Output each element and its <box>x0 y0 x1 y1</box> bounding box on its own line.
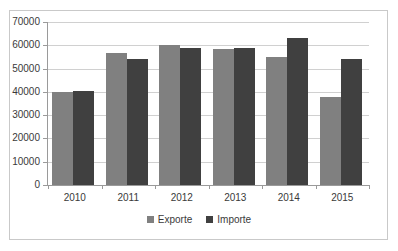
bar-exporte-2014 <box>266 57 287 185</box>
y-tick-label-0: 0 <box>34 180 40 190</box>
bar-group-2012 <box>155 22 209 185</box>
x-axis-label-2014: 2014 <box>262 192 316 203</box>
bar-group-2010 <box>48 22 102 185</box>
y-tick-mark-20000 <box>43 138 48 139</box>
x-axis-label-2011: 2011 <box>101 192 155 203</box>
bar-group-2014 <box>262 22 316 185</box>
bar-exporte-2015 <box>320 97 341 185</box>
bar-exporte-2013 <box>213 49 234 185</box>
bar-group-2011 <box>102 22 156 185</box>
x-axis-label-2010: 2010 <box>48 192 102 203</box>
legend-item-importe[interactable]: Importe <box>206 214 251 225</box>
y-tick-mark-0 <box>43 185 48 186</box>
bar-importe-2015 <box>341 59 362 185</box>
legend-item-exporte[interactable]: Exporte <box>147 214 192 225</box>
y-tick-label-40000: 40000 <box>12 87 40 97</box>
legend-label: Exporte <box>158 214 192 225</box>
bar-exporte-2011 <box>106 53 127 185</box>
y-tick-label-60000: 60000 <box>12 40 40 50</box>
chart-legend: ExporteImporte <box>0 214 398 225</box>
legend-swatch-icon-importe <box>206 216 213 223</box>
y-tick-mark-30000 <box>43 115 48 116</box>
x-tick-end <box>369 185 370 189</box>
y-tick-label-70000: 70000 <box>12 17 40 27</box>
y-tick-mark-10000 <box>43 162 48 163</box>
bar-importe-2010 <box>73 91 94 185</box>
y-tick-label-20000: 20000 <box>12 133 40 143</box>
plot-area <box>48 22 369 185</box>
bar-group-2013 <box>209 22 263 185</box>
y-tick-mark-40000 <box>43 92 48 93</box>
y-tick-label-30000: 30000 <box>12 110 40 120</box>
bar-exporte-2010 <box>52 92 73 185</box>
y-tick-mark-60000 <box>43 45 48 46</box>
y-tick-label-10000: 10000 <box>12 157 40 167</box>
bar-importe-2014 <box>287 38 308 185</box>
y-tick-mark-70000 <box>43 22 48 23</box>
y-tick-label-50000: 50000 <box>12 64 40 74</box>
x-axis-label-2012: 2012 <box>155 192 209 203</box>
bar-importe-2013 <box>234 48 255 185</box>
bar-importe-2012 <box>180 48 201 185</box>
y-tick-mark-50000 <box>43 69 48 70</box>
x-axis-label-2015: 2015 <box>315 192 369 203</box>
bar-group-2015 <box>316 22 370 185</box>
x-axis-label-2013: 2013 <box>208 192 262 203</box>
bar-exporte-2012 <box>159 45 180 185</box>
gridline-0 <box>48 185 369 186</box>
legend-swatch-icon-exporte <box>147 216 154 223</box>
bar-importe-2011 <box>127 59 148 185</box>
legend-label: Importe <box>217 214 251 225</box>
